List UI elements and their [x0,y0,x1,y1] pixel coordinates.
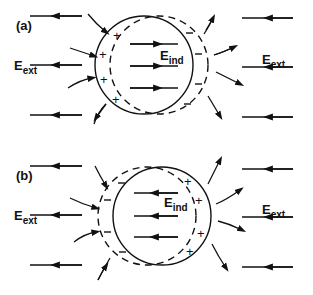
svg-text:+: + [184,174,192,189]
panel-label-b: (b) [16,168,33,183]
svg-text:+: + [99,47,107,62]
panel-a: (a) [14,14,293,124]
external-field-lines-right-b [242,169,293,267]
svg-text:+: + [113,28,121,43]
external-field-lines-right-a [242,18,293,117]
panel-b: (b) [14,160,293,280]
external-field-lines-left-a [30,16,82,115]
curved-field-lines-left-a [68,14,106,124]
curved-field-lines-right-a [204,18,240,116]
svg-text:+: + [100,72,108,87]
induced-field-arrows-a [130,44,178,88]
panel-label-a: (a) [16,18,32,33]
e-ext-label-left-a: Eext [14,58,38,76]
negative-charges-b [104,183,126,252]
curved-field-lines-left-b [70,166,110,280]
svg-text:+: + [112,92,120,107]
svg-text:+: + [197,226,205,241]
curved-field-lines-right-b [208,160,242,268]
e-ind-label-a: Eind [160,48,184,66]
diagram-canvas: (a) [0,0,313,295]
svg-text:+: + [195,193,203,208]
svg-text:+: + [186,244,194,259]
external-field-lines-left-b [30,166,82,265]
e-ext-label-left-b: Eext [14,208,38,226]
e-ind-label-b: Eind [164,195,188,213]
